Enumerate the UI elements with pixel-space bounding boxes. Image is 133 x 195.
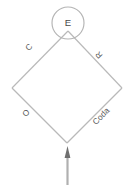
diagram-canvas: E C R O Coda — [0, 0, 133, 195]
input-arrow-head — [65, 146, 71, 158]
edge-label-lower-left: O — [20, 107, 32, 119]
edge-label-lower-right: Coda — [90, 105, 112, 127]
diagram-svg: E C R O Coda — [0, 0, 133, 195]
edge-label-upper-left: C — [23, 41, 34, 52]
edge-label-upper-right: R — [93, 49, 104, 60]
edge-lower-left-line — [12, 88, 67, 143]
edge-upper-left-line — [12, 31, 68, 88]
top-node-label: E — [65, 17, 71, 28]
